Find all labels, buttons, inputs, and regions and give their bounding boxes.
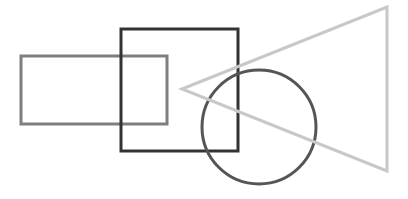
light-triangle bbox=[182, 7, 387, 171]
circle bbox=[202, 70, 316, 184]
dark-square bbox=[121, 29, 238, 151]
shapes-diagram bbox=[0, 0, 408, 199]
gray-rectangle bbox=[21, 56, 167, 124]
